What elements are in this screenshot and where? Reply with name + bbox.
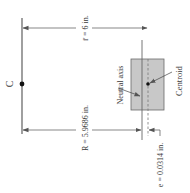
- center-point-c: [20, 82, 25, 87]
- r-bar-label: r̄ = 6 in.: [81, 15, 90, 41]
- R-label: R = 5.9686 in.: [81, 105, 90, 151]
- centroid-label: Centroid: [174, 65, 184, 95]
- centroid-point: [146, 82, 150, 86]
- curved-beam-diagram: C r̄ = 6 in. R = 5.9686 in. e = 0.0314 i…: [0, 0, 190, 193]
- e-label: e = 0.0314 in.: [156, 143, 165, 187]
- center-label: C: [4, 80, 15, 87]
- neutral-axis-label: Neutral axis: [116, 66, 125, 105]
- e-leader: [154, 130, 160, 136]
